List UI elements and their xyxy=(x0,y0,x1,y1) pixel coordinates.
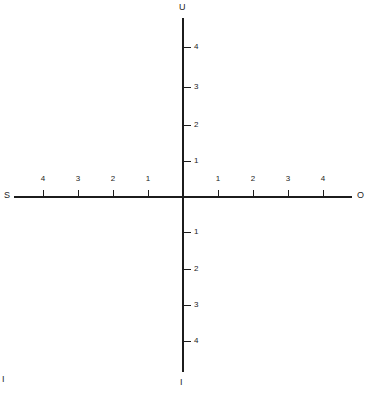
axis-label-top: U xyxy=(179,2,186,12)
y-tick-label-neg-4: 4 xyxy=(194,336,208,345)
y-tick-pos-4 xyxy=(184,47,191,48)
y-tick-label-pos-4: 4 xyxy=(194,42,208,51)
y-tick-label-neg-3: 3 xyxy=(194,300,208,309)
corner-mark: I xyxy=(2,374,5,384)
y-tick-neg-1 xyxy=(184,232,191,233)
axis-label-bottom: I xyxy=(180,377,183,387)
y-tick-pos-2 xyxy=(184,125,191,126)
x-tick-neg-2 xyxy=(113,190,114,197)
x-tick-label-pos-1: 1 xyxy=(211,174,225,183)
y-tick-label-neg-2: 2 xyxy=(194,264,208,273)
y-axis-line xyxy=(182,18,184,372)
x-tick-pos-3 xyxy=(288,190,289,197)
y-tick-pos-3 xyxy=(184,87,191,88)
x-tick-label-neg-2: 2 xyxy=(106,174,120,183)
axis-label-right: O xyxy=(357,190,364,200)
y-tick-label-pos-1: 1 xyxy=(194,156,208,165)
y-tick-label-pos-3: 3 xyxy=(194,82,208,91)
x-tick-neg-4 xyxy=(43,190,44,197)
x-tick-label-neg-4: 4 xyxy=(36,174,50,183)
x-tick-label-pos-3: 3 xyxy=(281,174,295,183)
y-tick-neg-3 xyxy=(184,305,191,306)
y-tick-label-pos-2: 2 xyxy=(194,120,208,129)
axis-label-left: S xyxy=(4,190,10,200)
y-tick-label-neg-1: 1 xyxy=(194,227,208,236)
x-tick-pos-2 xyxy=(253,190,254,197)
x-tick-label-pos-4: 4 xyxy=(316,174,330,183)
x-tick-pos-1 xyxy=(218,190,219,197)
y-tick-neg-4 xyxy=(184,341,191,342)
y-tick-pos-1 xyxy=(184,161,191,162)
x-tick-neg-3 xyxy=(78,190,79,197)
x-tick-neg-1 xyxy=(148,190,149,197)
x-tick-label-neg-1: 1 xyxy=(141,174,155,183)
x-tick-pos-4 xyxy=(323,190,324,197)
x-tick-label-neg-3: 3 xyxy=(71,174,85,183)
x-tick-label-pos-2: 2 xyxy=(246,174,260,183)
coordinate-axes-diagram: 4 3 2 1 1 2 3 4 4 3 2 1 1 2 3 4 U I S O … xyxy=(0,0,369,394)
y-tick-neg-2 xyxy=(184,269,191,270)
